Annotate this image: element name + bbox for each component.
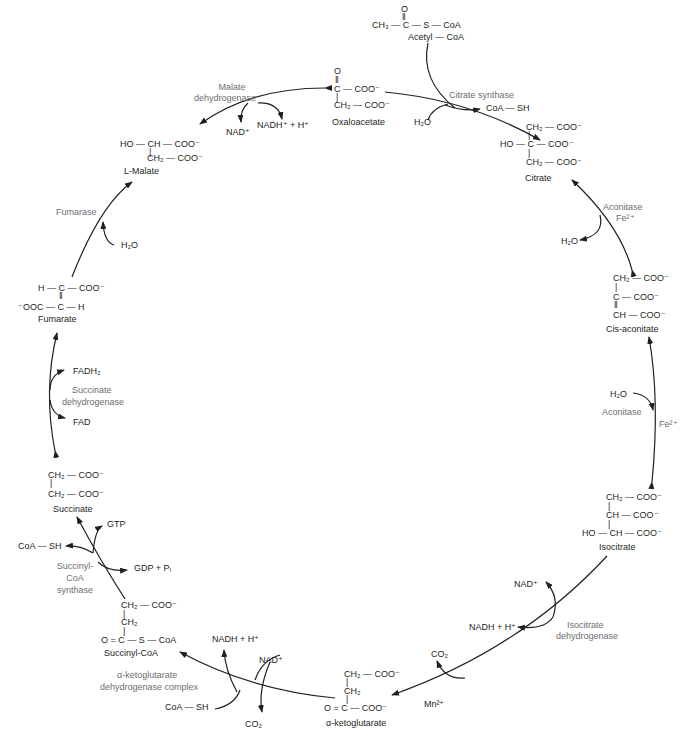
malate-line-1: HO — CH — COO⁻ (120, 139, 200, 150)
co2-product-isocitrate: CO₂ (431, 649, 448, 660)
water-reactant-fumarase: H₂O (121, 240, 138, 251)
citrate-line-2: HO — C — COO⁻ (500, 139, 574, 150)
aconitase-cofactor-2: Fe²⁺ (659, 419, 678, 430)
akg-dh-label-2: dehydrogenase complex (100, 682, 198, 693)
manganese-cofactor: Mn²⁺ (424, 699, 445, 710)
citrate-line-1: CH₂ — COO⁻ (526, 122, 582, 133)
malate-dh-label-2: dehydrogenase (190, 93, 260, 104)
cis-aconitate-line-2: C — COO⁻ (613, 292, 659, 303)
nad-reactant-isocitrate: NAD⁺ (514, 579, 538, 590)
nad-reactant-akg: NAD⁺ (259, 655, 283, 666)
nadh-product-malate: NADH⁺ + H⁺ (257, 120, 309, 131)
succinate-line-2: CH₂ — COO⁻ (48, 489, 104, 500)
isocitrate-line-1: CH₂ — COO⁻ (606, 492, 662, 503)
succinyl-coa-synthase-label-1: Succinyl- (52, 561, 98, 572)
isocitrate-line-3: HO — CH — COO⁻ (582, 528, 662, 539)
oxaloacetate-line-2: CH₂ — COO⁻ (334, 100, 390, 111)
isocitrate-dh-label-1: Isocitrate (567, 620, 604, 631)
akg-dh-label-1: α-ketoglutarate (117, 670, 177, 681)
cis-aconitate-line-1: CH₂ — COO⁻ (613, 273, 669, 284)
akg-line-3: O = C — COO⁻ (324, 703, 387, 714)
coa-sh-reactant-akg: CoA — SH (165, 702, 209, 713)
succinate-bond: | (50, 478, 52, 489)
oxaloacetate-line-1: C — COO⁻ (334, 84, 380, 95)
malate-line-2: CH₂ — COO⁻ (147, 153, 203, 164)
succinyl-coa-synthase-label-2: CoA (52, 573, 98, 584)
fumarate-line-2: ⁻OOC — C — H (18, 302, 85, 313)
oxaloacetate-label: Oxaloacetate (332, 117, 385, 128)
fumarate-line-1: H — C — COO⁻ (38, 283, 105, 294)
gdp-pi-reactant: GDP + Pᵢ (134, 563, 171, 574)
malate-dh-label-1: Malate (197, 82, 267, 93)
acetyl-coa-label: Acetyl — CoA (408, 32, 464, 43)
succinyl-coa-synthase-label-3: synthase (52, 585, 98, 596)
fumarate-label: Fumarate (38, 314, 77, 325)
isocitrate-line-2: CH — COO⁻ (606, 510, 659, 521)
coa-sh-product-succinyl: CoA — SH (18, 541, 62, 552)
water-reactant-2: H₂O (610, 389, 627, 400)
succinate-dh-label-1: Succinate (72, 385, 112, 396)
cis-aconitate-label: Cis-aconitate (606, 324, 659, 335)
succinate-line-1: CH₂ — COO⁻ (48, 470, 104, 481)
fadh2-product: FADH₂ (73, 366, 101, 377)
nadh-product-isocitrate: NADH + H⁺ (469, 622, 516, 633)
malate-label: L-Malate (124, 166, 159, 177)
fumarate-double-bond: ‖ (59, 291, 63, 302)
akg-line-1: CH₂ — COO⁻ (344, 669, 400, 680)
succinyl-coa-line-3: O = C — S — CoA (101, 635, 176, 646)
fumarase-label: Fumarase (56, 207, 97, 218)
succinate-dh-label-2: dehydrogenase (62, 397, 124, 408)
nad-product-malate: NAD⁺ (226, 127, 250, 138)
succinyl-coa-line-1: CH₂ — COO⁻ (121, 600, 177, 611)
acetyl-coa-formula: CH₃ — C — S — CoA (372, 20, 461, 31)
cis-aconitate-line-3: CH — COO⁻ (613, 310, 666, 321)
gtp-product: GTP (107, 519, 126, 530)
nadh-product-akg: NADH + H⁺ (212, 634, 259, 645)
aconitase-label-2: Aconitase (602, 407, 642, 418)
water-reactant: H₂O (414, 117, 431, 128)
water-product-1: H₂O (561, 236, 578, 247)
isocitrate-label: Isocitrate (599, 542, 636, 553)
akg-label: α-ketoglutarate (326, 718, 386, 729)
aconitase-label-1: Aconitase (603, 202, 643, 213)
fad-reactant: FAD (73, 417, 91, 428)
aconitase-cofactor-1: Fe²⁺ (616, 213, 635, 224)
coa-sh-product: CoA — SH (486, 103, 530, 114)
succinate-label: Succinate (53, 504, 93, 515)
co2-product-akg: CO₂ (245, 719, 262, 730)
citrate-line-3: CH₂ — COO⁻ (526, 157, 582, 168)
citrate-synthase-label: Citrate synthase (449, 90, 514, 101)
succinyl-coa-label: Succinyl-CoA (104, 648, 158, 659)
isocitrate-dh-label-2: dehydrogenase (556, 631, 618, 642)
citrate-label: Citrate (525, 173, 552, 184)
